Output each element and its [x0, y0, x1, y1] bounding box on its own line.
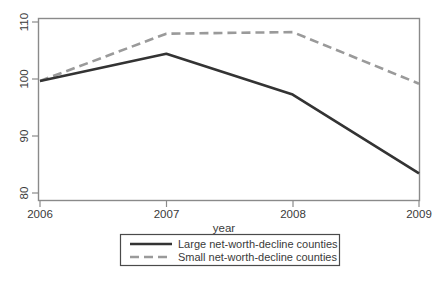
legend-label-large: Large net-worth-decline counties — [178, 238, 338, 250]
x-axis-title: year — [213, 222, 236, 234]
line-chart-svg: 110 100 90 80 2006 2007 2008 2009 year — [0, 0, 438, 283]
legend-label-small: Small net-worth-decline counties — [178, 251, 337, 263]
y-tick-label-80: 80 — [18, 187, 30, 200]
y-tick-label-100: 100 — [18, 69, 30, 88]
x-tick-label-2009: 2009 — [406, 208, 432, 220]
x-tick-label-2006: 2006 — [27, 208, 53, 220]
y-tick-label-90: 90 — [18, 130, 30, 143]
y-tick-label-110: 110 — [18, 13, 30, 31]
x-tick-label-2008: 2008 — [280, 208, 306, 220]
chart-figure: 110 100 90 80 2006 2007 2008 2009 year — [0, 0, 438, 283]
x-tick-label-2007: 2007 — [154, 208, 180, 220]
chart-legend: Large net-worth-decline counties Small n… — [121, 235, 340, 266]
